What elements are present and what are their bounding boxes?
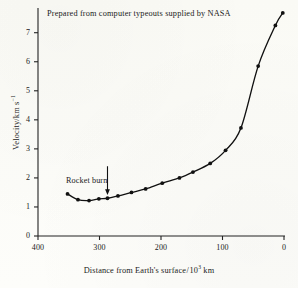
data-point-5 [116,194,120,198]
x-tick-label-0: 0 [272,243,296,252]
annotation-arrow-group [105,166,110,195]
ticks-group [34,33,284,240]
x-tick-label-400: 400 [26,243,50,252]
data-point-0 [66,192,70,196]
axes-group [38,8,285,236]
x-tick-label-200: 200 [149,243,173,252]
data-markers-group [66,11,285,202]
data-point-7 [144,187,148,191]
y-tick-label-5: 5 [16,86,30,95]
x-tick-label-300: 300 [88,243,112,252]
data-point-11 [208,162,212,166]
data-point-10 [191,170,195,174]
x-tick-label-100: 100 [211,243,235,252]
data-point-1 [76,198,80,202]
data-point-6 [130,191,134,195]
data-point-12 [224,148,228,152]
data-point-9 [178,176,182,180]
data-point-2 [87,199,91,203]
data-point-14 [256,64,260,68]
y-tick-label-3: 3 [16,144,30,153]
data-point-8 [160,181,164,185]
data-curve-group [68,13,283,201]
data-point-15 [273,24,277,28]
y-tick-label-4: 4 [16,115,30,124]
data-point-3 [97,197,101,201]
data-point-16 [281,11,285,15]
data-point-13 [239,126,243,130]
y-tick-label-6: 6 [16,57,30,66]
y-tick-label-0: 0 [16,231,30,240]
data-point-4 [106,196,110,200]
y-tick-label-2: 2 [16,173,30,182]
y-tick-label-1: 1 [16,202,30,211]
figure-container: Prepared from computer typeouts supplied… [0,0,298,288]
y-tick-label-7: 7 [16,28,30,37]
